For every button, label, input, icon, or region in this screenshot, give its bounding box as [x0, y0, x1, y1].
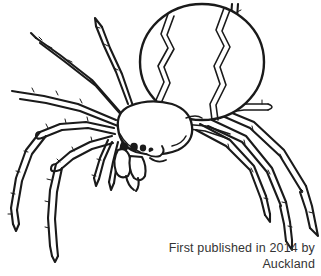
chelicera-left — [114, 149, 130, 177]
publication-credit: First published in 2014 by Auckland — [169, 240, 315, 272]
cephalothorax-outline — [118, 101, 192, 154]
spider-cephalothorax — [118, 101, 192, 154]
spider-illustration — [0, 0, 321, 276]
eye-3 — [140, 145, 146, 152]
eye-2 — [130, 143, 138, 151]
left-leg-2-tip — [12, 91, 18, 92]
coloring-page-image: First published in 2014 by Auckland — [0, 0, 321, 276]
credit-line-1: First published in 2014 by — [169, 240, 315, 256]
credit-line-2: Auckland — [169, 256, 315, 272]
chelicera-right — [130, 156, 146, 180]
